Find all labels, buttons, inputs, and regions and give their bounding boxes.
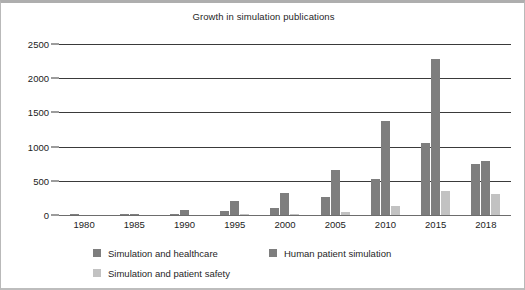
bar-2018-series-0 [471, 164, 480, 215]
x-axis: 198019851990199520002005201020152018 [59, 217, 511, 235]
legend-row-2: Simulation and patient safety [93, 263, 493, 283]
bar-1980-series-0 [70, 214, 79, 215]
legend-swatch-icon-2 [93, 269, 101, 277]
legend-swatch-icon-0 [93, 249, 101, 257]
bar-group-2015 [411, 44, 461, 215]
bar-2005-series-0 [321, 197, 330, 215]
bar-2005-series-1 [331, 170, 340, 215]
legend-label-1: Human patient simulation [284, 248, 391, 259]
x-tick-label-2018: 2018 [475, 219, 496, 230]
bar-group-1980 [59, 44, 109, 215]
y-tick-label-500: 500 [33, 175, 49, 186]
x-tick-label-1995: 1995 [224, 219, 245, 230]
bar-2015-series-1 [431, 59, 440, 215]
bar-group-1985 [109, 44, 159, 215]
y-axis: 05001000150020002500 [1, 44, 59, 215]
bar-2005-series-2 [341, 212, 350, 215]
y-tick-mark-2500 [51, 44, 59, 45]
legend-swatch-icon-1 [269, 249, 277, 257]
bar-group-1995 [210, 44, 260, 215]
bar-2018-series-2 [491, 194, 500, 215]
bar-group-2005 [310, 44, 360, 215]
bar-group-1990 [159, 44, 209, 215]
bar-1995-series-2 [240, 214, 249, 215]
x-tick-label-1990: 1990 [174, 219, 195, 230]
y-tick-label-2500: 2500 [28, 39, 49, 50]
x-tick-label-2015: 2015 [425, 219, 446, 230]
y-tick-mark-1500 [51, 112, 59, 113]
legend-label-2: Simulation and patient safety [108, 268, 230, 279]
bar-1995-series-0 [220, 211, 229, 215]
plot-area [59, 44, 511, 215]
bar-2000-series-0 [270, 208, 279, 215]
y-tick-label-2000: 2000 [28, 73, 49, 84]
bar-2010-series-2 [391, 206, 400, 215]
y-tick-label-1000: 1000 [28, 141, 49, 152]
y-tick-mark-0 [51, 215, 59, 216]
bar-1990-series-0 [170, 214, 179, 215]
legend-item-0[interactable]: Simulation and healthcare [93, 248, 269, 259]
bar-1995-series-1 [230, 201, 239, 215]
bar-2015-series-2 [441, 191, 450, 215]
y-tick-label-0: 0 [44, 210, 49, 221]
chart-title: Growth in simulation publications [1, 11, 525, 22]
bar-2010-series-1 [381, 121, 390, 215]
bar-2000-series-1 [280, 193, 289, 215]
x-tick-label-1980: 1980 [74, 219, 95, 230]
y-tick-mark-500 [51, 180, 59, 181]
legend-item-1[interactable]: Human patient simulation [269, 248, 391, 259]
bar-1985-series-0 [120, 214, 129, 215]
x-tick-label-2000: 2000 [274, 219, 295, 230]
bar-2010-series-0 [371, 179, 380, 215]
bar-1990-series-1 [180, 210, 189, 215]
legend-label-0: Simulation and healthcare [108, 248, 218, 259]
legend-row-1: Simulation and healthcareHuman patient s… [93, 243, 493, 263]
bar-group-2010 [360, 44, 410, 215]
y-tick-label-1500: 1500 [28, 107, 49, 118]
bar-2018-series-1 [481, 161, 490, 215]
legend-item-2[interactable]: Simulation and patient safety [93, 268, 230, 279]
x-tick-label-2010: 2010 [375, 219, 396, 230]
chart-figure: Growth in simulation publications 050010… [0, 0, 525, 290]
bar-1985-series-1 [130, 214, 139, 215]
bar-2015-series-0 [421, 143, 430, 215]
y-tick-mark-2000 [51, 78, 59, 79]
x-tick-label-2005: 2005 [325, 219, 346, 230]
bar-group-2018 [461, 44, 511, 215]
y-tick-mark-1000 [51, 146, 59, 147]
x-tick-label-1985: 1985 [124, 219, 145, 230]
bar-group-2000 [260, 44, 310, 215]
bar-2000-series-2 [290, 214, 299, 215]
gridline-0 [59, 215, 511, 216]
chart-legend: Simulation and healthcareHuman patient s… [93, 243, 493, 283]
